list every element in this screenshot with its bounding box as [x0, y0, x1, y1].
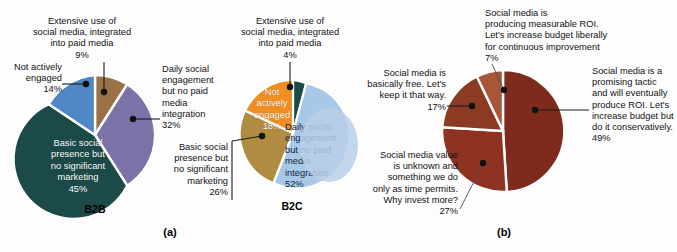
panel-b-caption: (b)	[474, 226, 534, 238]
leader-roi	[0, 0, 677, 252]
figure-social-media-pies: Basic social presence but no significant…	[0, 0, 677, 252]
